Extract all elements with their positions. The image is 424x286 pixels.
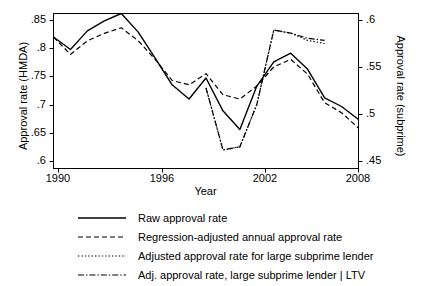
plot-area bbox=[0, 0, 424, 200]
legend-label-1: Regression-adjusted annual approval rate bbox=[138, 231, 342, 243]
legend-key-dashed-icon bbox=[78, 230, 126, 244]
chart-figure: Approval rate (HMDA) Approval rate (subp… bbox=[0, 0, 424, 286]
legend-item-3: Adj. approval rate, large subprime lende… bbox=[78, 265, 418, 284]
series-line-3 bbox=[206, 30, 325, 150]
legend-label-3: Adj. approval rate, large subprime lende… bbox=[138, 269, 365, 281]
legend-item-2: Adjusted approval rate for large subprim… bbox=[78, 246, 418, 265]
legend: Raw approval rate Regression-adjusted an… bbox=[78, 208, 418, 284]
legend-key-dashdot-icon bbox=[78, 268, 126, 282]
data-series-lines bbox=[54, 14, 359, 150]
legend-label-2: Adjusted approval rate for large subprim… bbox=[138, 250, 373, 262]
legend-key-dotted-icon bbox=[78, 249, 126, 263]
legend-item-1: Regression-adjusted annual approval rate bbox=[78, 227, 418, 246]
axis-ticks bbox=[50, 21, 363, 173]
legend-key-solid-icon bbox=[78, 211, 126, 225]
series-line-2 bbox=[206, 30, 325, 150]
series-line-0 bbox=[54, 14, 359, 130]
plot-frame bbox=[54, 14, 359, 169]
legend-item-0: Raw approval rate bbox=[78, 208, 418, 227]
legend-label-0: Raw approval rate bbox=[138, 212, 227, 224]
